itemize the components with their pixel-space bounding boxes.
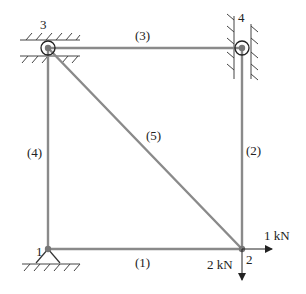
- node-label-3: 3: [40, 17, 47, 32]
- load-label-horizontal: 1 kN: [264, 228, 290, 243]
- load-label-vertical: 2 kN: [207, 257, 233, 272]
- joint-node-3: [45, 45, 51, 51]
- joint-node-1: [45, 246, 51, 252]
- member-label-2: (2): [246, 143, 261, 158]
- member-label-1: (1): [135, 255, 150, 270]
- node-label-2: 2: [246, 252, 253, 267]
- joint-node-4: [239, 45, 245, 51]
- member-label-3: (3): [135, 28, 150, 43]
- node-label-1: 1: [36, 244, 43, 259]
- members: [48, 48, 242, 249]
- member-5: [48, 48, 242, 249]
- member-label-4: (4): [27, 145, 42, 160]
- node-label-4: 4: [238, 10, 245, 25]
- member-label-5: (5): [146, 128, 161, 143]
- truss-diagram: 1 2 3 4 (1) (2) (3) (4) (5) 1 kN 2 kN: [0, 0, 306, 294]
- ground-hatch-node-1: [22, 264, 80, 271]
